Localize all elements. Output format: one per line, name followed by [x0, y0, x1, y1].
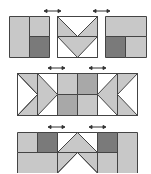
top-block-1 — [10, 17, 50, 58]
bottom-row — [18, 133, 138, 174]
middle-row — [18, 74, 138, 116]
arrow-mid-1 — [48, 67, 65, 70]
top-block-2 — [58, 17, 98, 58]
arrow-mid-2 — [89, 67, 106, 70]
arrow-top-1 — [44, 10, 61, 13]
arrow-top-2 — [93, 10, 110, 13]
arrow-bot-1 — [48, 126, 65, 129]
arrow-bot-2 — [89, 126, 106, 129]
top-block-3 — [106, 17, 147, 58]
quilt-diagram — [0, 0, 151, 173]
